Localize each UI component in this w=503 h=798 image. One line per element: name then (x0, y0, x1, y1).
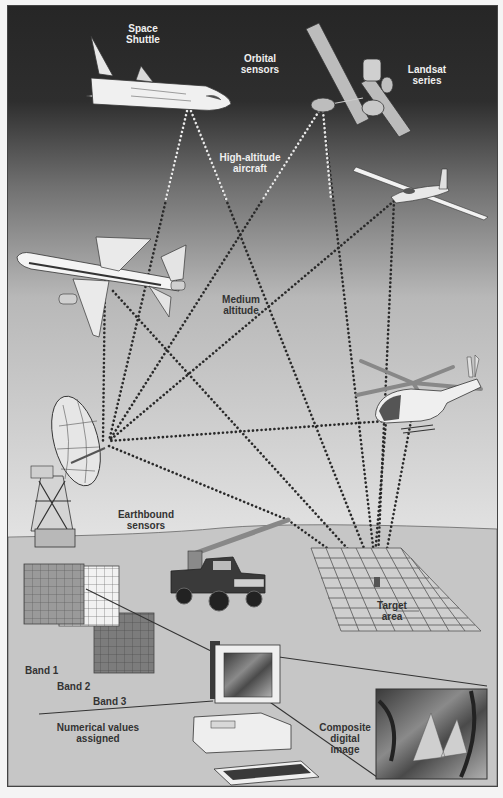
composite-digital-image (376, 689, 487, 779)
label-composite-digital-image: Composite digital image (315, 722, 375, 755)
label-band-2: Band 2 (57, 681, 90, 692)
label-band-3: Band 3 (93, 696, 126, 707)
label-medium-altitude: Medium altitude (211, 294, 271, 316)
label-orbital-sensors: Orbital sensors (230, 53, 290, 75)
label-high-altitude-aircraft: High-altitude aircraft (210, 152, 290, 174)
diagram-scene (8, 6, 497, 786)
label-earthbound-sensors: Earthbound sensors (111, 509, 181, 531)
monitor-screen (224, 653, 272, 697)
label-band-1: Band 1 (25, 665, 58, 676)
diagram-frame: Space Shuttle Orbital sensors Landsat se… (7, 5, 498, 787)
label-space-shuttle: Space Shuttle (113, 23, 173, 45)
label-landsat-series: Landsat series (397, 64, 457, 86)
band-1-grid (24, 564, 84, 624)
label-numerical-values-assigned: Numerical values assigned (48, 722, 148, 744)
label-target-area: Target area (367, 600, 417, 622)
